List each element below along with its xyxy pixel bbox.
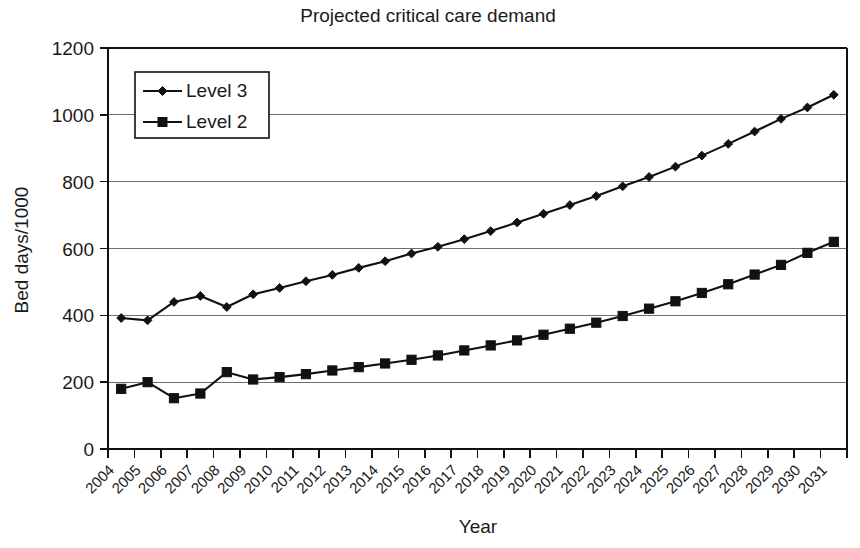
- y-tick-marks-group: [100, 48, 108, 449]
- x-tick-label-2018: 2018: [451, 461, 487, 497]
- data-point-diamond: [697, 151, 706, 160]
- data-point-square: [275, 373, 284, 382]
- x-tick-label-2022: 2022: [557, 461, 593, 497]
- x-tick-label-2007: 2007: [161, 461, 197, 497]
- data-point-square: [196, 389, 205, 398]
- x-tick-label-2017: 2017: [425, 461, 461, 497]
- y-tick-label-0: 0: [83, 439, 94, 460]
- x-tick-label-2031: 2031: [794, 461, 830, 497]
- y-tick-label-1000: 1000: [52, 105, 94, 126]
- y-tick-label-200: 200: [62, 372, 94, 393]
- data-point-square: [803, 248, 812, 257]
- x-tick-label-2026: 2026: [662, 461, 698, 497]
- y-tick-label-400: 400: [62, 305, 94, 326]
- data-point-square: [697, 288, 706, 297]
- data-point-square: [117, 384, 126, 393]
- data-point-square: [565, 324, 574, 333]
- data-point-square: [249, 375, 258, 384]
- x-tick-label-2016: 2016: [398, 461, 434, 497]
- x-tick-label-2006: 2006: [134, 461, 170, 497]
- y-tick-label-600: 600: [62, 239, 94, 260]
- data-point-square: [381, 359, 390, 368]
- x-tick-label-2030: 2030: [768, 461, 804, 497]
- x-tick-label-2010: 2010: [240, 461, 276, 497]
- data-point-square: [724, 280, 733, 289]
- y-axis-title: Bed days/1000: [11, 187, 32, 314]
- y-tick-label-1200: 1200: [52, 38, 94, 59]
- x-tick-label-2005: 2005: [108, 461, 144, 497]
- data-point-square: [460, 346, 469, 355]
- data-point-diamond: [275, 284, 284, 293]
- data-point-square: [539, 330, 548, 339]
- legend-label-level-3: Level 3: [186, 80, 247, 101]
- x-tick-label-2029: 2029: [742, 461, 778, 497]
- data-point-square: [433, 351, 442, 360]
- data-point-diamond: [565, 201, 574, 210]
- data-point-diamond: [486, 227, 495, 236]
- x-tick-labels-group: 2004200520062007200820092010201120122013…: [82, 461, 830, 497]
- x-tick-label-2024: 2024: [610, 461, 646, 497]
- data-point-square: [486, 341, 495, 350]
- projected-critical-care-demand-chart: Projected critical care demand 020040060…: [0, 0, 860, 548]
- data-point-diamond: [513, 218, 522, 227]
- data-point-diamond: [354, 263, 363, 272]
- data-point-diamond: [196, 292, 205, 301]
- data-point-diamond: [302, 277, 311, 286]
- data-point-square: [301, 370, 310, 379]
- x-tick-label-2025: 2025: [636, 461, 672, 497]
- x-tick-label-2020: 2020: [504, 461, 540, 497]
- data-point-square: [618, 311, 627, 320]
- data-point-diamond: [222, 303, 231, 312]
- data-point-diamond: [750, 127, 759, 136]
- x-axis-title: Year: [459, 516, 498, 537]
- data-point-square: [776, 260, 785, 269]
- data-point-square: [169, 394, 178, 403]
- x-tick-label-2023: 2023: [583, 461, 619, 497]
- data-point-diamond: [829, 90, 838, 99]
- gridlines-group: [108, 115, 847, 382]
- data-point-square: [592, 318, 601, 327]
- chart-container: Projected critical care demand 020040060…: [0, 0, 860, 548]
- data-point-square: [750, 270, 759, 279]
- data-point-square: [143, 378, 152, 387]
- data-point-diamond: [539, 209, 548, 218]
- x-tick-label-2009: 2009: [214, 461, 250, 497]
- data-point-square: [644, 304, 653, 313]
- x-tick-label-2008: 2008: [187, 461, 223, 497]
- data-point-square: [512, 336, 521, 345]
- data-point-diamond: [460, 235, 469, 244]
- x-tick-label-2012: 2012: [293, 461, 329, 497]
- data-point-square: [671, 297, 680, 306]
- x-tick-label-2013: 2013: [319, 461, 355, 497]
- data-point-diamond: [777, 114, 786, 123]
- x-tick-marks-group: [108, 449, 847, 458]
- data-point-diamond: [381, 257, 390, 266]
- data-point-diamond: [592, 192, 601, 201]
- data-point-square: [829, 237, 838, 246]
- square-icon: [158, 118, 167, 127]
- x-tick-label-2014: 2014: [346, 461, 382, 497]
- data-point-square: [354, 363, 363, 372]
- chart-legend: Level 3 Level 2: [135, 72, 269, 138]
- data-point-diamond: [671, 162, 680, 171]
- y-tick-labels-group: 020040060080010001200: [52, 38, 94, 460]
- data-point-diamond: [249, 290, 258, 299]
- x-tick-label-2027: 2027: [689, 461, 725, 497]
- x-tick-label-2011: 2011: [267, 461, 302, 496]
- y-tick-label-800: 800: [62, 172, 94, 193]
- chart-title: Projected critical care demand: [300, 5, 556, 26]
- data-point-diamond: [645, 173, 654, 182]
- x-tick-label-2021: 2021: [530, 461, 566, 497]
- data-point-diamond: [434, 242, 443, 251]
- x-tick-label-2028: 2028: [715, 461, 751, 497]
- data-point-diamond: [407, 249, 416, 258]
- legend-label-level-2: Level 2: [186, 111, 247, 132]
- data-point-square: [222, 368, 231, 377]
- x-tick-label-2019: 2019: [478, 461, 514, 497]
- x-tick-label-2015: 2015: [372, 461, 408, 497]
- data-point-diamond: [724, 140, 733, 149]
- data-point-diamond: [328, 270, 337, 279]
- data-point-diamond: [803, 103, 812, 112]
- x-tick-label-2004: 2004: [82, 461, 118, 497]
- series-level-2: [117, 237, 839, 403]
